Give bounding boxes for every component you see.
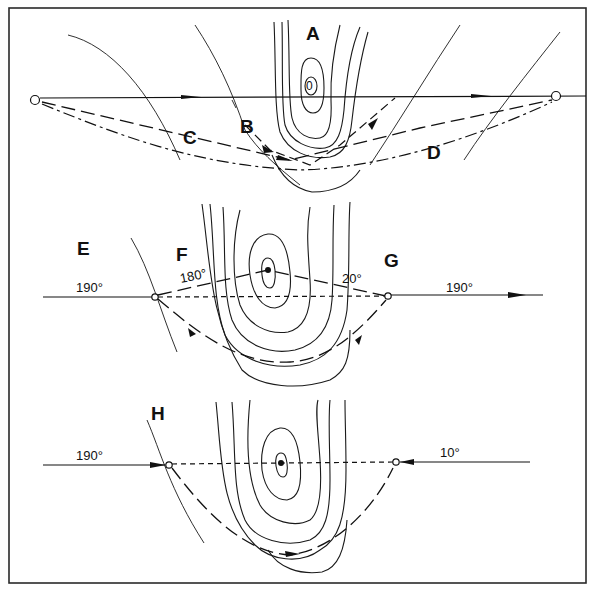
isobar-line — [195, 25, 300, 185]
label-a: A — [306, 23, 320, 44]
heading-leg2: 20° — [342, 271, 362, 286]
arrow-icon — [508, 292, 526, 298]
waypoint-node — [166, 462, 172, 468]
arrow-icon — [355, 335, 362, 345]
arrow-icon — [188, 328, 196, 337]
contours-bottom — [216, 400, 347, 573]
waypoint-node — [385, 293, 391, 299]
route-south — [172, 468, 393, 555]
panel-bottom: H 190° 10° — [43, 400, 530, 573]
label-g: G — [384, 250, 399, 271]
arrow-icon — [262, 145, 274, 153]
label-h: H — [151, 403, 165, 424]
direct-track — [40, 96, 586, 98]
waypoint-node — [152, 294, 158, 300]
label-f: F — [176, 244, 188, 265]
isobar-line — [370, 25, 460, 165]
label-b: B — [240, 116, 254, 137]
end-node — [552, 92, 561, 101]
heading-leg1: 180° — [179, 266, 208, 286]
low-center — [278, 460, 284, 466]
direct-dashed-track — [158, 296, 386, 297]
panel-middle: E F G 190° 180° 20° 190° — [43, 202, 543, 386]
contours-a — [272, 20, 368, 192]
heading-west-in: 190° — [76, 280, 103, 295]
contours-middle — [202, 202, 350, 386]
heading-east-out: 190° — [446, 280, 473, 295]
label-e: E — [77, 238, 90, 259]
arrow-icon — [368, 118, 378, 130]
arrow-icon — [400, 459, 414, 465]
panel-top: 0 A B C D — [31, 20, 587, 192]
heading-west-in: 190° — [76, 448, 103, 463]
low-center — [265, 267, 271, 273]
arrow-icon — [471, 94, 491, 98]
route-south — [158, 299, 386, 362]
isobar-line — [147, 420, 204, 543]
arrow-icon — [285, 551, 300, 557]
label-c: C — [183, 127, 197, 148]
weather-routing-diagram: 0 A B C D — [0, 0, 596, 593]
arrow-icon — [181, 95, 201, 99]
contour-value: 0 — [306, 79, 313, 93]
start-node — [31, 96, 40, 105]
label-d: D — [427, 142, 441, 163]
heading-east-in: 10° — [440, 445, 460, 460]
waypoint-node — [393, 459, 399, 465]
